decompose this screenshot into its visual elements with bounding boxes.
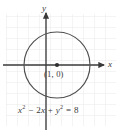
equation-caption: x2 − 2x + y2 = 8 (18, 106, 79, 115)
x-axis-label: x (108, 60, 112, 69)
y-axis-label: y (42, 4, 46, 13)
equation-operator-2: + (45, 105, 55, 115)
circle-center-label: (1, 0) (44, 70, 64, 79)
graph-figure: x y (1, 0) x2 − 2x + y2 = 8 (0, 0, 120, 137)
equation-operator-1: − 2 (26, 105, 41, 115)
circle-center-point (55, 63, 59, 67)
equation-operator-3: = 8 (63, 105, 78, 115)
